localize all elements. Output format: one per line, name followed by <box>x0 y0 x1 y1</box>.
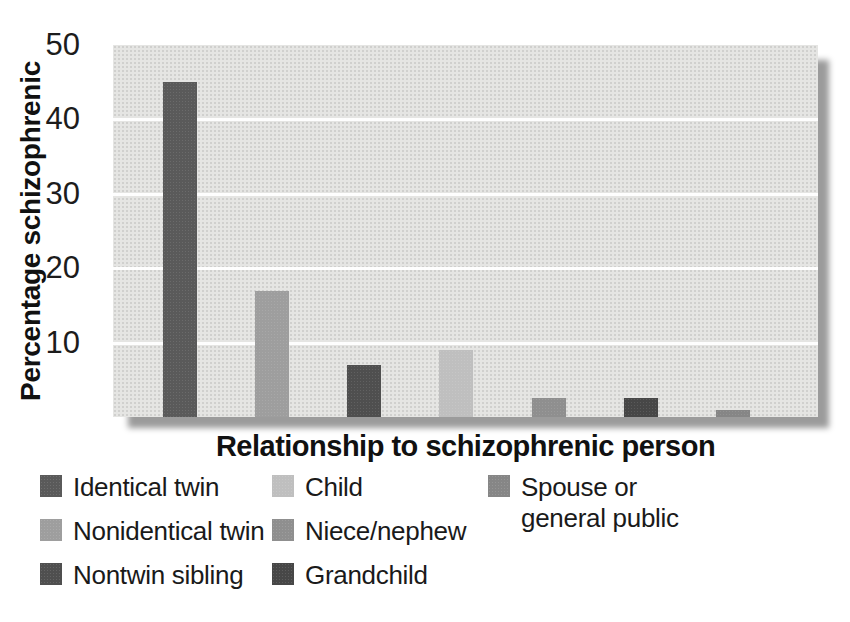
legend-item-child: Child <box>272 472 466 503</box>
legend-swatch-nonidentical-twin <box>40 519 62 541</box>
legend-label: Nontwin sibling <box>73 560 243 591</box>
legend-item-nonidentical-twin: Nonidentical twin <box>40 516 264 547</box>
y-tick-label: 10 <box>46 325 80 361</box>
legend-swatch-identical-twin <box>40 475 62 497</box>
legend-swatch-niece-nephew <box>272 519 294 541</box>
legend-label: Identical twin <box>73 472 219 503</box>
bar-identical-twin <box>163 82 197 417</box>
legend-label: Spouse or general public <box>521 472 679 534</box>
legend-item-nontwin-sibling: Nontwin sibling <box>40 560 264 591</box>
legend-column-1: Identical twinNonidentical twinNontwin s… <box>40 472 264 604</box>
bar-spouse-or-general-public <box>716 410 750 417</box>
y-tick-label: 50 <box>46 27 80 63</box>
legend-label: Child <box>305 472 363 503</box>
legend-column-2: ChildNiece/nephewGrandchild <box>272 472 466 604</box>
bar-nonidentical-twin <box>255 291 289 417</box>
legend-item-identical-twin: Identical twin <box>40 472 264 503</box>
y-tick-label: 20 <box>46 250 80 286</box>
legend-label: Nonidentical twin <box>73 516 264 547</box>
bar-nontwin-sibling <box>347 365 381 417</box>
legend-item-niece-nephew: Niece/nephew <box>272 516 466 547</box>
y-tick-label: 40 <box>46 101 80 137</box>
bar-child <box>439 350 473 417</box>
gridline-10 <box>113 342 818 345</box>
bar-grandchild <box>624 398 658 417</box>
x-axis-title: Relationship to schizophrenic person <box>113 430 818 463</box>
plot-area <box>113 45 818 417</box>
legend-label: Grandchild <box>305 560 428 591</box>
gridline-30 <box>113 193 818 196</box>
legend: Identical twinNonidentical twinNontwin s… <box>0 472 850 622</box>
y-tick-label: 30 <box>46 176 80 212</box>
gridline-40 <box>113 118 818 121</box>
legend-swatch-nontwin-sibling <box>40 563 62 585</box>
legend-label: Niece/nephew <box>305 516 466 547</box>
gridline-20 <box>113 267 818 270</box>
figure: Percentage schizophrenic 5040302010 Rela… <box>0 0 850 622</box>
legend-swatch-spouse-or-general-public <box>488 475 510 497</box>
bar-niece-nephew <box>532 398 566 417</box>
legend-swatch-child <box>272 475 294 497</box>
legend-column-3: Spouse or general public <box>488 472 679 547</box>
legend-item-grandchild: Grandchild <box>272 560 466 591</box>
legend-swatch-grandchild <box>272 563 294 585</box>
y-axis: 5040302010 <box>0 45 80 417</box>
legend-item-spouse-or-general-public: Spouse or general public <box>488 472 679 534</box>
